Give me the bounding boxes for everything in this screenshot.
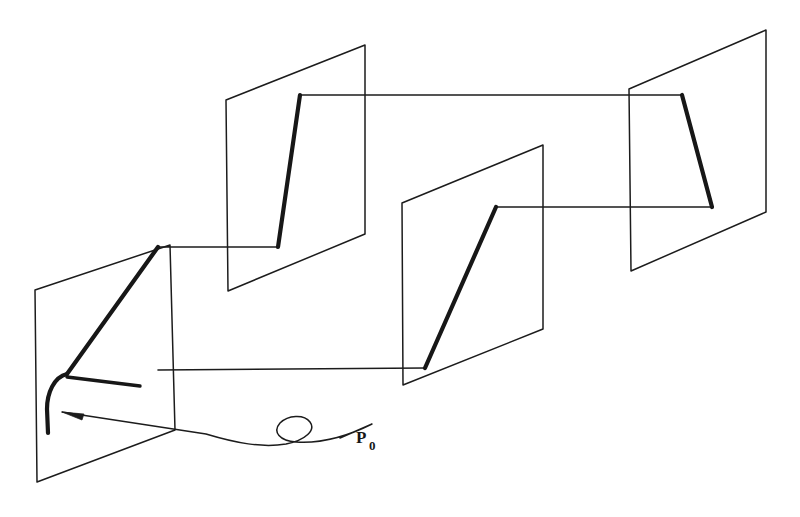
figure-canvas: P 0 <box>0 0 800 517</box>
p0-label-base: P <box>356 428 367 447</box>
figure-root: P 0 <box>0 0 800 517</box>
canvas-background <box>0 0 800 517</box>
p0-label-subscript: 0 <box>369 438 376 453</box>
